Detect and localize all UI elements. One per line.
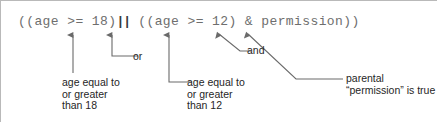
annotation-label-age12: age equal to or greater than 12	[187, 77, 245, 112]
annotation-label-parental: parental “permission” is true	[346, 73, 435, 96]
code-prefix: ((age >= 18)	[18, 14, 116, 29]
annotation-label-or: or	[133, 51, 142, 63]
annotation-label-and: and	[247, 45, 265, 57]
code-suffix: ((age >= 12) & permission))	[130, 14, 360, 29]
figure-panel: ((age >= 18)|| ((age >= 12) & permission…	[0, 0, 437, 122]
code-expression: ((age >= 18)|| ((age >= 12) & permission…	[18, 14, 360, 30]
leader-line-age12	[169, 35, 192, 82]
code-or-operator: ||	[116, 14, 130, 29]
annotation-label-age18: age equal to or greater than 18	[62, 77, 120, 112]
leader-line-parental	[248, 34, 343, 79]
